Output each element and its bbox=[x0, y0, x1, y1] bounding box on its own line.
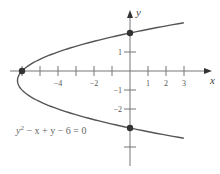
parabola-path bbox=[18, 23, 184, 139]
intercept-points bbox=[19, 30, 133, 131]
x-tick-label: −4 bbox=[54, 79, 63, 88]
equation-label: y2 − x + y − 6 = 0 bbox=[15, 124, 87, 136]
y-tick-label: −2 bbox=[113, 105, 122, 114]
intercept-point bbox=[127, 125, 133, 131]
x-tick-label: 2 bbox=[164, 79, 168, 88]
x-tick-label: −2 bbox=[90, 79, 99, 88]
graph-canvas: −4−21231−1−2 x y y2 − x + y − 6 = 0 bbox=[0, 0, 220, 174]
axes: −4−21231−1−2 bbox=[10, 10, 212, 166]
intercept-point bbox=[19, 68, 25, 74]
y-tick-label: 1 bbox=[118, 48, 122, 57]
y-axis-arrow-icon bbox=[127, 10, 133, 18]
y-tick-label: −1 bbox=[113, 86, 122, 95]
x-axis-label: x bbox=[209, 74, 215, 86]
parabola-curve bbox=[18, 23, 184, 139]
y-axis-label: y bbox=[135, 6, 141, 18]
x-tick-label: 1 bbox=[146, 79, 150, 88]
intercept-point bbox=[127, 30, 133, 36]
x-tick-label: 3 bbox=[182, 79, 186, 88]
